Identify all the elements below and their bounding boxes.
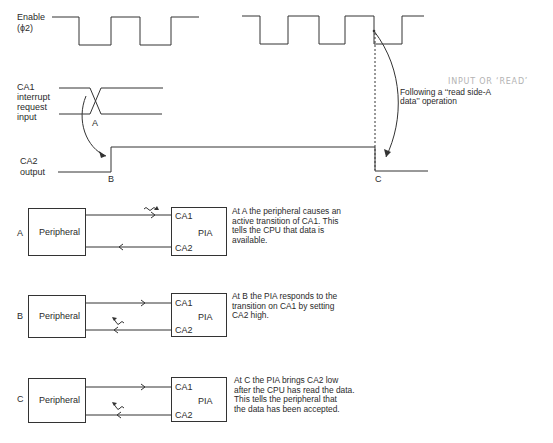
curved-arrow-to-c — [374, 31, 398, 157]
peripheral-label: Peripheral — [39, 395, 80, 405]
enable-waveform-left — [52, 17, 199, 45]
ca1-label: CA1 — [17, 82, 35, 92]
pia-box: CA1 PIA CA2 — [171, 293, 227, 337]
ca2-pin-label: CA2 — [175, 410, 193, 420]
ca1-pin-label: CA1 — [175, 298, 193, 308]
diagram-label: B — [17, 311, 23, 321]
ca2-output-label: output — [20, 167, 45, 177]
ca2-pin-label: CA2 — [175, 325, 193, 335]
pia-label: PIA — [198, 396, 213, 406]
annotation-line-2: data’’ operation — [400, 97, 457, 107]
diagram-label: A — [17, 228, 23, 238]
ca1-pin-label: CA1 — [175, 211, 193, 221]
pia-box: CA1 PIA CA2 — [171, 377, 227, 422]
ca2-pin-label: CA2 — [175, 243, 193, 253]
enable-phi2-label: (ϕ2) — [17, 23, 33, 33]
peripheral-box: Peripheral — [28, 378, 86, 423]
peripheral-label: Peripheral — [39, 311, 80, 321]
peripheral-label: Peripheral — [39, 227, 80, 237]
ca2-waveform — [58, 147, 428, 172]
ca1-request-label: request — [17, 102, 47, 112]
handwritten-note: INPUT OR ‘READ’ — [448, 77, 528, 86]
ca1-waveform-bottom — [59, 88, 163, 114]
enable-label: Enable — [17, 12, 45, 22]
squiggle-icon-a — [144, 208, 156, 211]
peripheral-box: Peripheral — [28, 295, 86, 338]
description-line: available. — [232, 236, 267, 246]
pia-box: CA1 PIA CA2 — [171, 207, 227, 256]
enable-waveform-right — [242, 16, 424, 44]
ca2-label: CA2 — [20, 156, 38, 166]
point-b-label: B — [108, 174, 114, 184]
point-a-label: A — [92, 118, 98, 128]
ca1-pin-label: CA1 — [175, 382, 193, 392]
peripheral-box: Peripheral — [28, 208, 86, 256]
description-line: the data has been accepted. — [234, 405, 340, 415]
point-c-label: C — [375, 174, 382, 184]
ca1-waveform-top — [59, 88, 162, 114]
description-line: CA2 high. — [232, 311, 269, 321]
ca1-input-label: input — [17, 112, 37, 122]
pia-label: PIA — [198, 228, 213, 238]
diagram-label: C — [17, 394, 24, 404]
pia-label: PIA — [198, 312, 213, 322]
ca1-interrupt-label: interrupt — [17, 92, 50, 102]
